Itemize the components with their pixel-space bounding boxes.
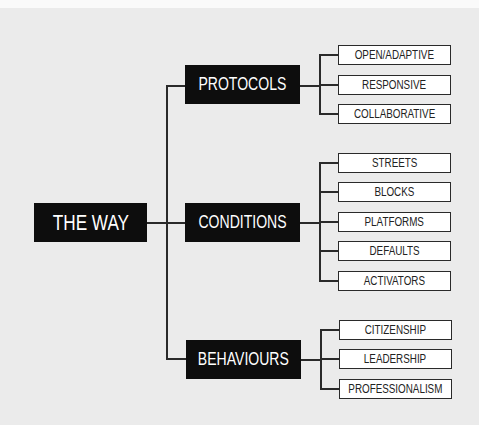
connector-behaviours-leaf-1 [320, 329, 339, 331]
leaf-node-defaults: DEFAULTS [338, 241, 451, 261]
connector-protocols-out [300, 85, 319, 87]
leaf-node-professionalism: PROFESSIONALISM [339, 379, 452, 399]
leaf-label: DEFAULTS [369, 244, 419, 258]
leaf-label: LEADERSHIP [364, 352, 426, 366]
connector-trunk-to-protocols [166, 85, 185, 87]
root-node-the-way: THE WAY [34, 203, 147, 242]
root-node-label: THE WAY [52, 210, 128, 236]
leaf-node-leadership: LEADERSHIP [339, 349, 452, 369]
leaf-label: ACTIVATORS [364, 274, 425, 288]
leaf-node-activators: ACTIVATORS [338, 271, 451, 291]
connector-conditions-leaf-5 [319, 280, 338, 282]
connector-trunk-vertical [166, 85, 168, 358]
leaf-node-blocks: BLOCKS [338, 182, 451, 202]
leaf-label: STREETS [372, 156, 417, 170]
connector-conditions-leaf-3 [319, 221, 338, 223]
leaf-label: PLATFORMS [365, 215, 424, 229]
connector-conditions-leaf-1 [319, 162, 338, 164]
leaf-node-collaborative: COLLABORATIVE [338, 104, 451, 124]
connector-trunk-to-behaviours [166, 358, 186, 360]
connector-protocols-leaf-2 [319, 84, 338, 86]
branch-node-conditions: CONDITIONS [185, 203, 300, 242]
connector-protocols-leaf-1 [319, 54, 338, 56]
branch-label: BEHAVIOURS [198, 349, 289, 370]
connector-conditions-out [300, 222, 319, 224]
connector-behaviours-leaf-2 [320, 358, 339, 360]
connector-conditions-leaf-4 [319, 250, 338, 252]
top-strip [0, 0, 479, 8]
branch-label: CONDITIONS [198, 212, 286, 233]
connector-behaviours-leaf-3 [320, 388, 339, 390]
leaf-node-responsive: RESPONSIVE [338, 75, 451, 95]
leaf-label: BLOCKS [375, 185, 415, 199]
leaf-node-open-adaptive: OPEN/ADAPTIVE [338, 45, 451, 65]
connector-behaviours-out [301, 359, 320, 361]
connector-protocols-leaf-3 [319, 113, 338, 115]
leaf-label: PROFESSIONALISM [348, 382, 442, 396]
leaf-node-streets: STREETS [338, 153, 451, 173]
branch-node-behaviours: BEHAVIOURS [186, 340, 301, 379]
branch-node-protocols: PROTOCOLS [185, 65, 300, 104]
leaf-label: CITIZENSHIP [365, 323, 426, 337]
leaf-label: OPEN/ADAPTIVE [355, 48, 434, 62]
leaf-node-citizenship: CITIZENSHIP [339, 320, 452, 340]
leaf-label: COLLABORATIVE [354, 107, 435, 121]
leaf-node-platforms: PLATFORMS [338, 212, 451, 232]
connector-conditions-leaf-2 [319, 191, 338, 193]
leaf-label: RESPONSIVE [363, 78, 427, 92]
branch-label: PROTOCOLS [199, 74, 287, 95]
